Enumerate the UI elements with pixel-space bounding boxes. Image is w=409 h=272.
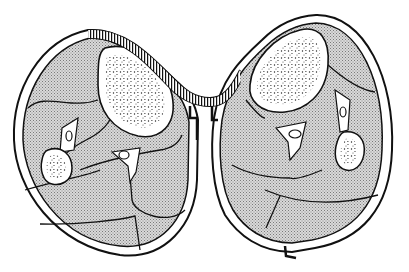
right-limb-section <box>212 15 392 258</box>
limb-cross-section-figure <box>0 0 409 272</box>
diagram-canvas: Cross-section diagram of two limbs joine… <box>0 0 409 272</box>
left-limb-section <box>14 30 198 256</box>
